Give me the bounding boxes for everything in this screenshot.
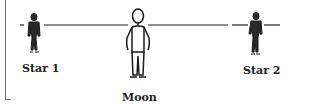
moon-label: Moon bbox=[122, 91, 157, 104]
moon-figure bbox=[127, 9, 150, 77]
star-1-label: Star 1 bbox=[22, 62, 59, 75]
star-1-figure bbox=[28, 13, 40, 52]
star-2-figure bbox=[249, 12, 262, 54]
star-2-label: Star 2 bbox=[243, 64, 280, 77]
